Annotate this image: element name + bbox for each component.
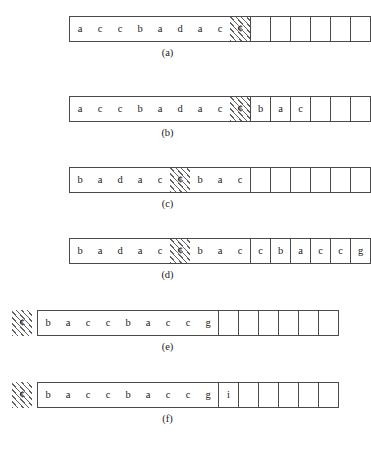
cell-text: ¢ [177,175,182,186]
filled-cell: g [350,239,370,263]
filled-cell: b [190,168,210,192]
cell-text: a [146,318,151,329]
cell-text: g [358,246,363,257]
empty-cell [318,383,338,407]
cell-text: b [77,175,82,186]
empty-cell [258,383,278,407]
tape-box: accbadac¢bac [69,96,371,122]
marker-cell: ¢ [230,17,250,41]
divided-region [218,311,338,335]
cell-text: c [166,390,171,401]
cell-text: a [146,390,151,401]
filled-cell: c [230,239,250,263]
panel-caption: (a) [0,47,335,58]
cell-text: a [218,175,223,186]
filled-cell: d [110,168,130,192]
filled-cell: b [118,311,138,335]
cell-text: c [98,24,103,35]
cell-text: b [45,390,50,401]
cell-text: ¢ [237,104,242,115]
tape-row: ¢accbadac¢ [0,14,335,44]
filled-cell: a [210,239,230,263]
cell-text: d [177,104,182,115]
empty-cell [290,17,310,41]
cell-text: a [66,318,71,329]
filled-cell: c [178,383,198,407]
cell-text: c [186,390,191,401]
filled-cell: c [290,97,310,121]
cell-text: a [66,390,71,401]
empty-cell [310,168,330,192]
filled-cell: a [90,239,110,263]
marker-cell: ¢ [170,168,190,192]
divided-region: bac [250,97,370,121]
filled-cell: b [190,239,210,263]
filled-cell: c [330,239,350,263]
filled-cell: b [130,97,150,121]
filled-cell: a [190,17,210,41]
cell-text: c [86,390,91,401]
cell-text: a [78,24,83,35]
cell-text: c [118,24,123,35]
cell-text: d [117,246,122,257]
cell-text: b [125,318,130,329]
cell-text: a [78,104,83,115]
filled-cell: d [170,97,190,121]
panel-e: ¢baccbaccg(e) [0,308,335,352]
cell-text: i [227,390,230,401]
filled-region: badac¢bac [70,239,250,263]
tape-box: accbadac¢ [69,16,371,42]
cell-text: c [218,24,223,35]
cell-text: b [197,246,202,257]
empty-cell [330,97,350,121]
cell-text: a [158,24,163,35]
empty-cell [310,97,330,121]
cell-text: c [158,175,163,186]
filled-cell: c [210,97,230,121]
empty-cell [350,97,370,121]
tape-row: ¢accbadac¢bac [0,94,335,124]
cell-text: ¢ [237,24,242,35]
filled-cell: c [310,239,330,263]
filled-region: badac¢bac [70,168,250,192]
filled-cell: c [110,17,130,41]
filled-cell: a [190,97,210,121]
cell-text: c [318,246,323,257]
cell-text: c [338,246,343,257]
filled-cell: c [110,97,130,121]
marker-glyph: ¢ [20,390,25,400]
panel-caption: (d) [0,269,335,280]
filled-cell: b [70,168,90,192]
cell-text: ¢ [177,246,182,257]
detached-marker-icon: ¢ [12,382,32,408]
filled-cell: c [230,168,250,192]
filled-cell: c [158,311,178,335]
empty-cell [270,17,290,41]
panel-d: ¢badac¢baccbaccg(d) [0,236,335,280]
tape-row: ¢baccbaccg [0,308,335,338]
filled-region: baccbaccg [38,311,218,335]
empty-cell [298,311,318,335]
filled-cell: a [58,383,78,407]
cell-text: c [106,318,111,329]
cell-text: a [138,246,143,257]
cell-text: b [197,175,202,186]
divided-region: i [218,383,338,407]
filled-cell: a [130,168,150,192]
filled-cell: g [198,383,218,407]
cell-text: a [198,24,203,35]
panel-a: ¢accbadac¢(a) [0,14,335,58]
filled-cell: b [130,17,150,41]
filled-cell: a [58,311,78,335]
cell-text: c [238,246,243,257]
empty-cell [238,383,258,407]
tape-row: ¢baccbaccgi [0,380,335,410]
filled-cell: a [150,17,170,41]
cell-text: d [117,175,122,186]
marker-cell: ¢ [230,97,250,121]
cell-text: b [137,24,142,35]
panel-caption: (f) [0,413,335,424]
empty-cell [290,168,310,192]
filled-cell: c [158,383,178,407]
